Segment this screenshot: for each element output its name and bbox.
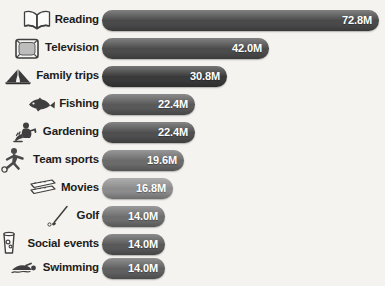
bar-value-label: 14.0M	[128, 239, 158, 250]
row-label-group: Movies	[0, 174, 101, 202]
bar: 16.8M	[102, 178, 173, 199]
row-label-group: Gardening	[0, 118, 101, 146]
row-label-group: Television	[0, 34, 101, 62]
row-label-group: Fishing	[0, 90, 101, 118]
bar-row: Gardening 22.4M	[0, 118, 385, 146]
category-label: Movies	[61, 182, 99, 194]
open-book-icon	[22, 7, 52, 33]
row-label-group: Family trips	[0, 62, 101, 90]
bar: 14.0M	[102, 234, 165, 255]
bar-value-label: 19.6M	[147, 155, 177, 166]
bar: 72.8M	[102, 10, 379, 31]
bar: 42.0M	[102, 38, 269, 59]
bar-container: 22.4M	[102, 90, 195, 118]
category-label: Team sports	[33, 154, 99, 166]
category-label: Social events	[27, 238, 99, 250]
bar-value-label: 14.0M	[128, 263, 158, 274]
bar: 14.0M	[102, 206, 165, 227]
bar-row: Television 42.0M	[0, 34, 385, 62]
bar-row: Golf 14.0M	[0, 202, 385, 230]
category-label: Reading	[55, 14, 99, 26]
bar: 19.6M	[102, 150, 184, 171]
gardening-icon	[10, 119, 40, 145]
bar-container: 22.4M	[102, 118, 195, 146]
bar: 22.4M	[102, 94, 195, 115]
television-icon	[12, 35, 42, 61]
bar-container: 42.0M	[102, 34, 269, 62]
bar-value-label: 22.4M	[158, 127, 188, 138]
bar-value-label: 14.0M	[128, 211, 158, 222]
bar: 22.4M	[102, 122, 195, 143]
fish-icon	[26, 91, 56, 117]
category-label: Gardening	[43, 126, 99, 138]
bar-container: 72.8M	[102, 6, 379, 34]
bar-value-label: 30.8M	[190, 71, 220, 82]
bar-row: Swimming 14.0M	[0, 254, 385, 282]
horizontal-bar-chart: Reading 72.8M Television 42.0M	[0, 0, 385, 286]
bar-row: Fishing 22.4M	[0, 90, 385, 118]
category-label: Golf	[77, 210, 99, 222]
running-figure-icon	[0, 147, 30, 173]
bar-value-label: 42.0M	[232, 43, 262, 54]
bar-container: 19.6M	[102, 146, 184, 174]
bar-container: 14.0M	[102, 202, 165, 230]
row-label-group: Reading	[0, 6, 101, 34]
row-label-group: Team sports	[0, 146, 101, 174]
category-label: Television	[45, 42, 99, 54]
bar-container: 30.8M	[102, 62, 227, 90]
row-label-group: Golf	[0, 202, 101, 230]
bar-row: Reading 72.8M	[0, 6, 385, 34]
bar: 30.8M	[102, 66, 227, 87]
tent-icon	[3, 63, 33, 89]
category-label: Fishing	[59, 98, 99, 110]
bar-value-label: 16.8M	[136, 183, 166, 194]
bar: 14.0M	[102, 258, 165, 279]
bar-container: 14.0M	[102, 254, 165, 282]
bar-row: Team sports 19.6M	[0, 146, 385, 174]
bar-row: Movies 16.8M	[0, 174, 385, 202]
category-label: Swimming	[43, 262, 99, 274]
swimmer-icon	[10, 255, 40, 281]
golf-club-icon	[44, 203, 74, 229]
row-label-group: Swimming	[0, 254, 101, 282]
category-label: Family trips	[36, 70, 99, 82]
bar-value-label: 72.8M	[342, 15, 372, 26]
bar-container: 16.8M	[102, 174, 173, 202]
bar-value-label: 22.4M	[158, 99, 188, 110]
bar-row: Family trips 30.8M	[0, 62, 385, 90]
film-strip-icon	[28, 175, 58, 201]
